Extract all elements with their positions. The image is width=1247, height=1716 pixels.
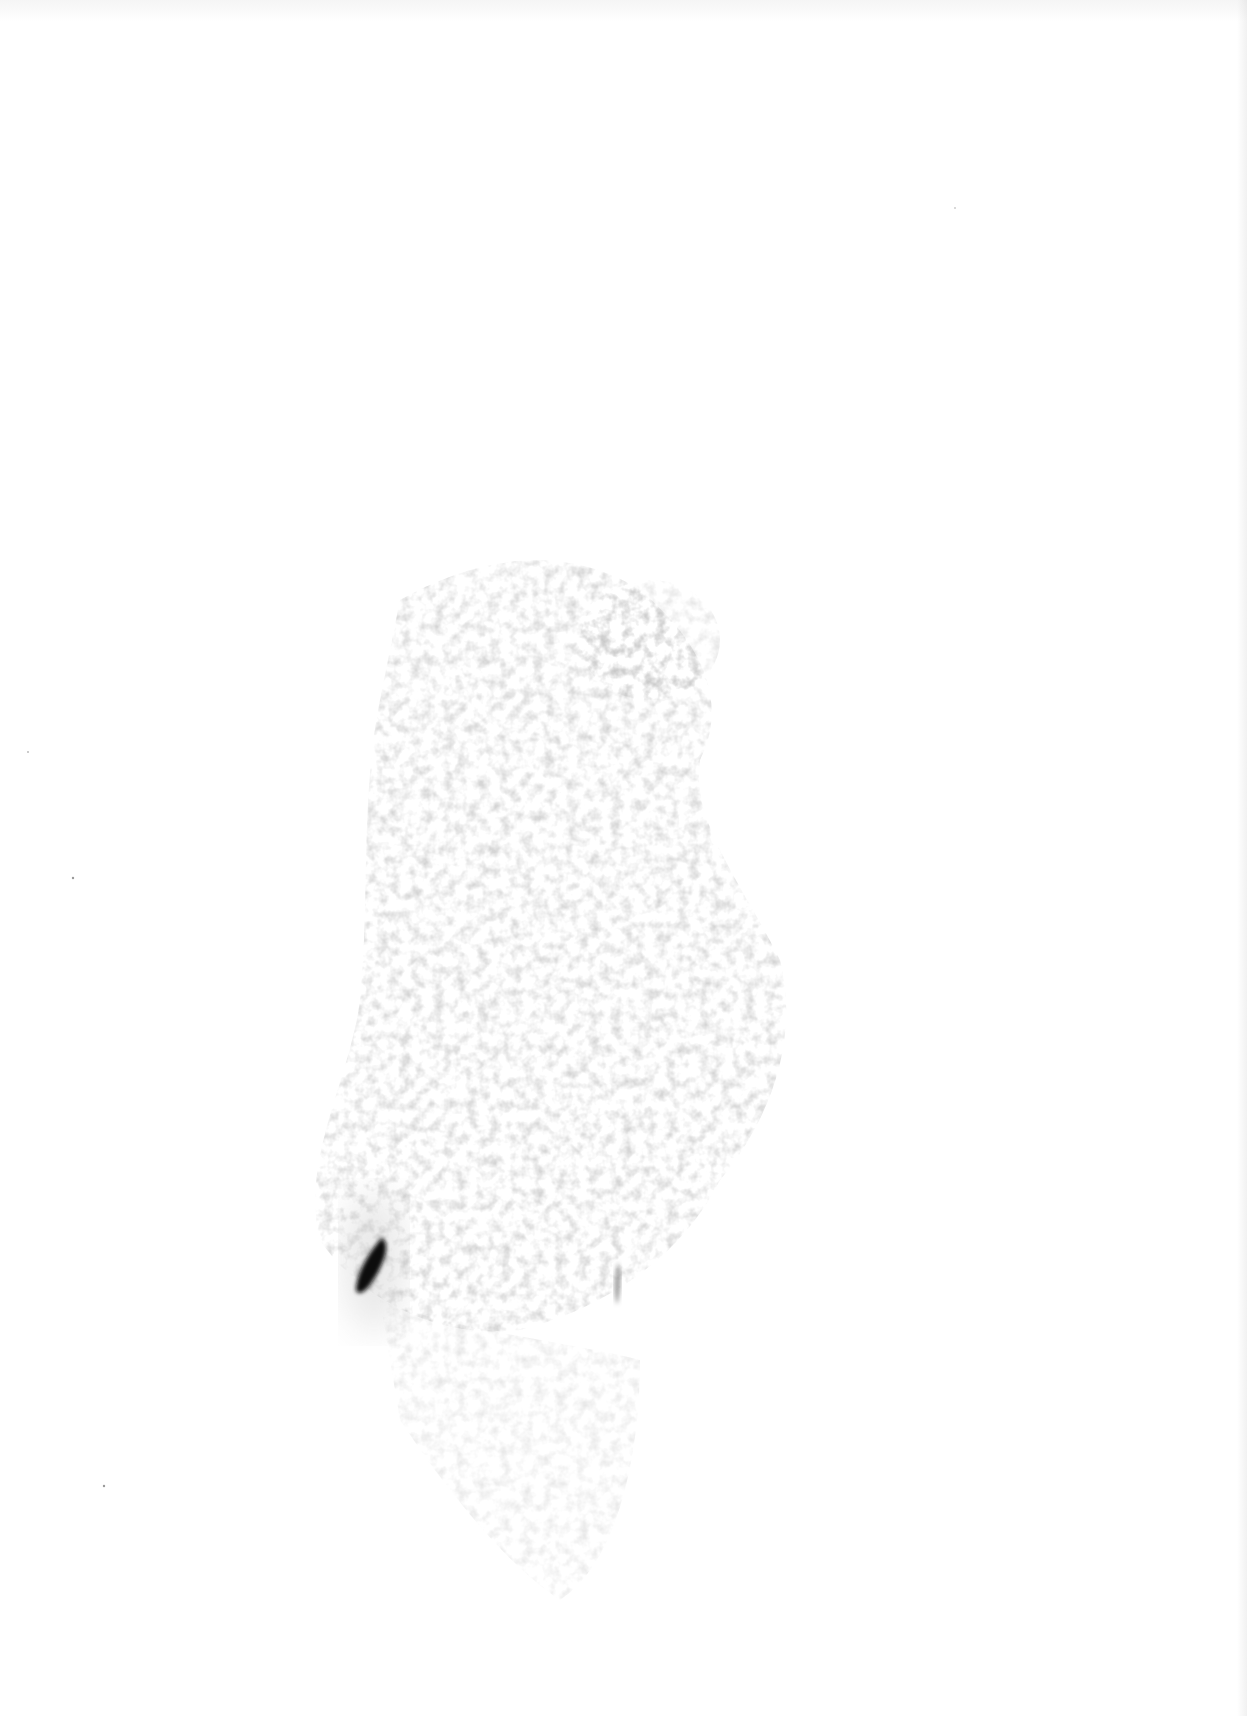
scan-canvas <box>0 0 1247 1716</box>
speckle-smear <box>0 0 1247 1716</box>
dark-streak <box>344 1192 404 1332</box>
